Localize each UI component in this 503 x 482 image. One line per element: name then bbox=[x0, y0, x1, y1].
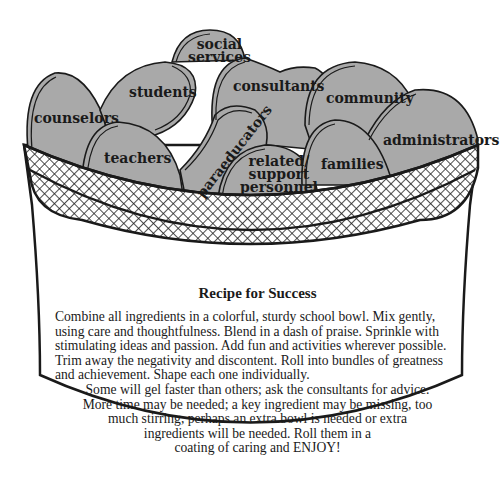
recipe-closing: Some will gel faster than others; ask th… bbox=[55, 383, 460, 456]
ingredient-related-support: related/ support personnel bbox=[240, 155, 318, 194]
recipe-line: coating of caring and ENJOY! bbox=[55, 441, 460, 456]
recipe-card: Recipe for Success Combine all ingredien… bbox=[50, 285, 460, 456]
recipe-line: ingredients will be needed. Roll them in… bbox=[55, 427, 460, 442]
ingredient-counselors: counselors bbox=[34, 112, 119, 125]
ingredient-label: personnel bbox=[240, 181, 318, 194]
ingredient-families: families bbox=[321, 158, 384, 171]
ingredient-community: community bbox=[326, 92, 414, 105]
recipe-title: Recipe for Success bbox=[55, 285, 460, 302]
ingredient-administrators: administrators bbox=[383, 134, 499, 147]
ingredient-social-services: social services bbox=[188, 38, 251, 64]
ingredient-consultants: consultants bbox=[233, 80, 325, 93]
ingredient-teachers: teachers bbox=[104, 152, 171, 165]
ingredient-label: services bbox=[188, 51, 251, 64]
recipe-paragraph: Combine all ingredients in a colorful, s… bbox=[55, 310, 460, 383]
recipe-line: More time may be needed; a key ingredien… bbox=[55, 398, 460, 413]
ingredient-students: students bbox=[129, 86, 197, 99]
recipe-line: much stirring, perhaps an extra bowl is … bbox=[55, 412, 460, 427]
recipe-line: Some will gel faster than others; ask th… bbox=[55, 383, 460, 398]
